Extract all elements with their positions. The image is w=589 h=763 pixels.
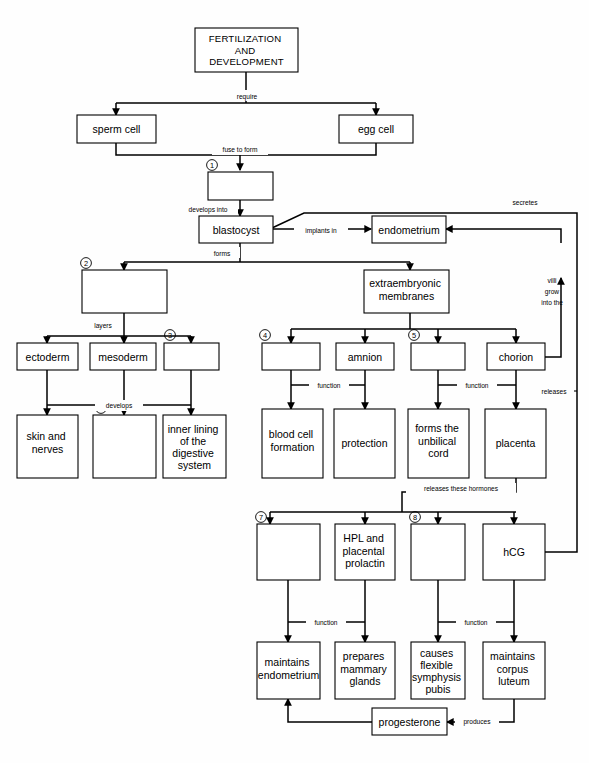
number-label-5: 5 <box>412 331 416 340</box>
node-sperm-cell: sperm cell <box>77 115 156 143</box>
number-label-4: 4 <box>263 331 267 340</box>
svg-text:extraembryonic membranes: extraembryonic membranes <box>369 277 444 302</box>
node-blood-cell-formation: blood cell formation <box>262 409 323 478</box>
node-label-innerlining-line-4: system <box>178 459 212 471</box>
node-mammary-glands: prepares mammary glands <box>335 642 395 699</box>
node-maintains-endometrium: maintains endometrium <box>257 642 320 699</box>
number-label-1: 1 <box>210 161 214 170</box>
node-label-mammary-line-3: glands <box>350 675 381 687</box>
node-hpl-prolactin: HPL and placental prolactin <box>335 524 395 580</box>
node-label-hpl-line-1: HPL and <box>343 532 384 544</box>
node-label-symphysis-line-1: causes <box>420 647 453 659</box>
edge-label-forms: forms <box>214 250 231 257</box>
edge-label-function-4: function <box>464 619 487 626</box>
fertilization-development-flowchart: FERTILIZATION AND DEVELOPMENT sperm cell… <box>0 0 589 763</box>
node-label-umbilical-line-1: forms the <box>415 422 459 434</box>
node-label-umbilical-line-2: unbilical <box>418 435 456 447</box>
node-label-innerlining-line-1: inner lining <box>168 423 219 435</box>
node-corpus-luteum: maintains corpus luteum <box>483 642 545 699</box>
node-label-corpusluteum-line-3: luteum <box>498 675 530 687</box>
edge-label-villi-line-3: into the <box>541 299 563 306</box>
number-label-8: 8 <box>413 513 417 522</box>
node-label-protection: protection <box>341 437 387 449</box>
node-blank-4: 4 <box>260 330 320 370</box>
node-label-innerlining-line-2: of the <box>180 435 206 447</box>
node-label-sperm-cell: sperm cell <box>93 123 141 135</box>
edge-label-require: require <box>237 93 258 101</box>
node-label-skin-line-1: skin and <box>26 430 65 442</box>
edge-label-function-2: function <box>465 382 488 389</box>
node-inner-lining: inner lining of the digestive system <box>163 415 226 478</box>
node-amnion: amnion <box>336 343 394 370</box>
node-label-endometrium: endometrium <box>378 224 440 236</box>
node-blastocyst: blastocyst <box>199 216 273 243</box>
edge-label-implants-in: implants in <box>305 227 337 235</box>
node-label-innerlining-line-3: digestive <box>172 447 214 459</box>
number-label-7: 7 <box>259 513 263 522</box>
node-umbilical-cord: forms the unbilical cord <box>408 409 469 478</box>
node-label-amnion: amnion <box>348 351 383 363</box>
node-label-symphysis-line-4: pubis <box>425 683 450 695</box>
title-line-2: AND <box>235 45 256 56</box>
node-label-corpusluteum-line-2: corpus <box>497 663 529 675</box>
node-title: FERTILIZATION AND DEVELOPMENT <box>195 28 298 72</box>
node-skin-and-nerves: skin and nerves <box>17 415 78 478</box>
node-chorion: chorion <box>487 343 545 370</box>
node-label-symphysis-line-3: symphysis <box>412 671 461 683</box>
node-egg-cell: egg cell <box>339 115 413 143</box>
title-line-1: FERTILIZATION <box>209 33 282 44</box>
node-endometrium: endometrium <box>372 216 446 243</box>
node-label-bloodcell-line-2: formation <box>271 441 315 453</box>
node-progesterone: progesterone <box>372 708 447 735</box>
node-symphysis-pubis: causes flexible symphysis pubis <box>411 642 465 699</box>
node-placenta: placenta <box>485 409 546 478</box>
node-label-egg-cell: egg cell <box>358 123 394 135</box>
node-hcg: hCG <box>483 524 545 580</box>
edge-label-villi-line-2: grow <box>545 288 560 296</box>
edge-label-function-3: function <box>314 619 337 626</box>
title-line-3: DEVELOPMENT <box>209 56 284 67</box>
edge-label-develops-into: develops into <box>189 206 228 214</box>
svg-text:maintains endometrium: maintains endometrium <box>258 656 320 681</box>
edge-progesterone-maintainsendo <box>288 699 372 722</box>
node-label-ectoderm: ectoderm <box>26 351 70 363</box>
node-label-skin-line-2: nerves <box>32 443 64 455</box>
node-label-symphysis-line-2: flexible <box>420 659 453 671</box>
svg-text:blood cell formation: blood cell formation <box>269 428 316 453</box>
number-label-3: 3 <box>168 331 172 340</box>
node-ectoderm: ectoderm <box>17 343 78 370</box>
node-label-blastocyst: blastocyst <box>213 224 260 236</box>
node-label-hpl-line-3: prolactin <box>345 557 385 569</box>
edge-label-layers: layers <box>94 322 112 330</box>
node-label-corpusluteum-line-1: maintains <box>490 650 535 662</box>
node-label-mammary-line-1: prepares <box>343 650 384 662</box>
node-extraembryonic-membranes: extraembryonic membranes <box>364 270 449 313</box>
node-blank-5: 5 <box>409 330 465 370</box>
node-label-maintainsendo-line-2: endometrium <box>258 669 320 681</box>
node-protection: protection <box>334 409 395 478</box>
number-label-2: 2 <box>84 259 88 268</box>
edge-villi-into-endometrium <box>446 229 561 243</box>
node-label-maintainsendo-line-1: maintains <box>265 656 310 668</box>
node-label-hcg: hCG <box>503 546 525 558</box>
edge-label-releases: releases <box>542 388 568 395</box>
node-label-mammary-line-2: mammary <box>340 663 387 675</box>
svg-text:skin and nerves: skin and nerves <box>26 430 68 455</box>
node-label-progesterone: progesterone <box>379 716 441 728</box>
node-label-hpl-line-2: placental <box>343 545 385 557</box>
node-label-umbilical-line-3: cord <box>428 447 449 459</box>
node-mesoderm: mesoderm <box>90 343 156 370</box>
node-blank-7: 7 <box>256 512 320 580</box>
node-label-chorion: chorion <box>499 351 534 363</box>
node-label-placenta: placenta <box>496 437 536 449</box>
edge-label-produces: produces <box>463 718 491 726</box>
node-label-membranes-line-1: extraembryonic <box>369 277 441 289</box>
svg-text:HPL and placental: HPL and placental prolactin <box>343 532 388 569</box>
node-label-bloodcell-line-1: blood cell <box>269 428 313 440</box>
edge-label-villi-line-1: villi <box>547 277 557 284</box>
node-label-mesoderm: mesoderm <box>98 351 148 363</box>
edge-label-fuse-to-form: fuse to form <box>223 146 258 153</box>
edge-label-develops: develops <box>106 402 133 410</box>
node-label-membranes-line-2: membranes <box>379 290 434 302</box>
edge-label-releases-hormones: releases these hormones <box>424 485 499 492</box>
